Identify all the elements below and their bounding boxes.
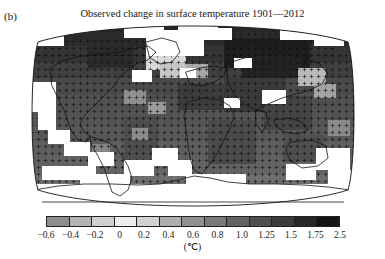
colorbar-segment-10 <box>272 217 295 226</box>
figure-panel-b: (b) Observed change in surface temperatu… <box>0 0 385 259</box>
colorbar-segment-1 <box>70 217 93 226</box>
colorbar-segment-0 <box>47 217 70 226</box>
map-plot-area <box>28 24 358 210</box>
colorbar-segment-3 <box>115 217 138 226</box>
colorbar-gradient <box>46 216 340 227</box>
colorbar-unit-label: (℃) <box>0 241 385 254</box>
colorbar-segment-4 <box>137 217 160 226</box>
colorbar-segment-12 <box>317 217 339 226</box>
page-title: Observed change in surface temperature 1… <box>0 7 385 20</box>
colorbar-segment-9 <box>250 217 273 226</box>
map-data-layer <box>28 24 358 210</box>
colorbar-segment-8 <box>227 217 250 226</box>
world-temperature-map <box>28 24 358 210</box>
colorbar-segment-11 <box>295 217 318 226</box>
colorbar-segment-7 <box>205 217 228 226</box>
colorbar-segment-5 <box>160 217 183 226</box>
colorbar <box>46 216 340 227</box>
colorbar-segment-2 <box>92 217 115 226</box>
colorbar-segment-6 <box>182 217 205 226</box>
